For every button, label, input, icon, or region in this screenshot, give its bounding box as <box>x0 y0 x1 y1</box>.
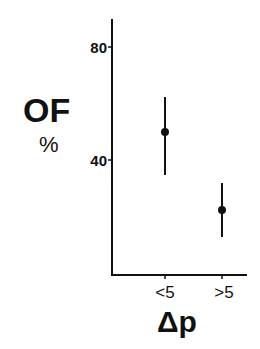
x-axis-label: Δp <box>157 305 197 338</box>
ytick-80-label: 80 <box>90 39 107 56</box>
data-point-1 <box>218 206 226 214</box>
xtick-0-label: <5 <box>155 283 174 302</box>
xtick-1-label: >5 <box>214 283 233 302</box>
ytick-40-label: 40 <box>90 152 107 169</box>
y-axis-unit: % <box>39 132 59 157</box>
data-point-0 <box>161 128 169 136</box>
chart: 80 40 <5 >5 OF % Δp <box>0 0 260 349</box>
y-axis-label: OF <box>23 91 70 129</box>
